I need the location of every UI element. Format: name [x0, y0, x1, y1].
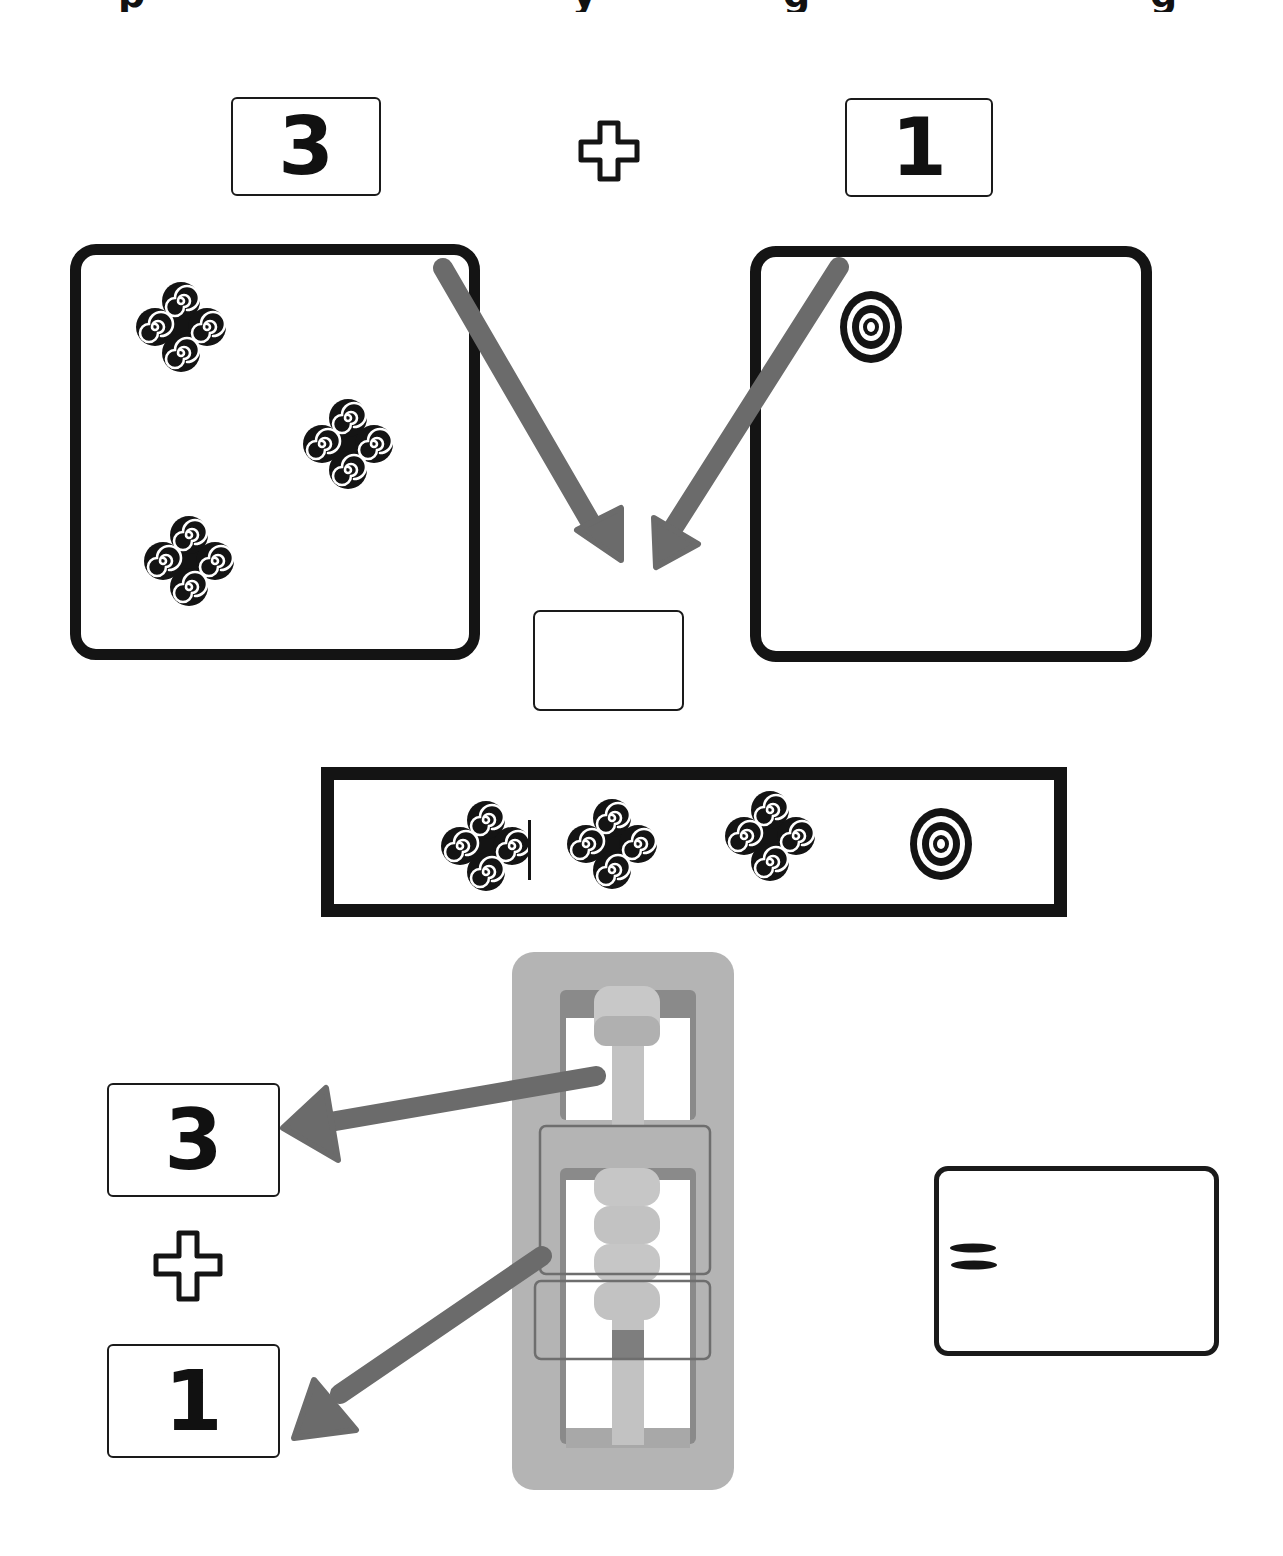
arrow-abacus-to-one: [340, 1256, 542, 1394]
equals-icon: [949, 1241, 999, 1271]
number-card-one: 1: [107, 1344, 280, 1458]
arrow-right-to-result: [672, 267, 839, 530]
number-card-three: 3: [107, 1083, 280, 1197]
number-three: 3: [164, 1098, 222, 1182]
plus-icon: [153, 1230, 223, 1302]
abacus: [512, 952, 734, 1490]
arrow-left-to-result: [443, 268, 595, 530]
equals-answer-box[interactable]: [934, 1166, 1219, 1356]
number-one: 1: [164, 1359, 222, 1443]
